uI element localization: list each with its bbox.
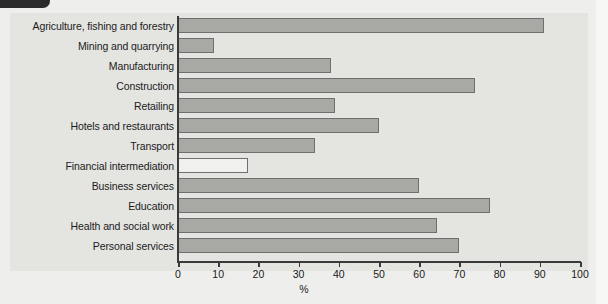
category-label: Personal services	[0, 239, 174, 254]
bar	[178, 18, 544, 33]
bar	[178, 118, 379, 133]
x-axis-tick-label: 50	[359, 268, 399, 280]
x-axis-tick	[459, 262, 461, 267]
bar	[178, 58, 331, 73]
x-axis-tick-label: 10	[198, 268, 238, 280]
bar	[178, 238, 459, 253]
x-axis-title: %	[0, 283, 608, 295]
category-label: Financial intermediation	[0, 159, 174, 174]
category-label: Mining and quarrying	[0, 39, 174, 54]
x-axis-tick-label: 100	[560, 268, 600, 280]
bar	[178, 138, 315, 153]
x-axis-tick-label: 70	[439, 268, 479, 280]
x-axis-tick	[500, 262, 502, 267]
bar	[178, 38, 214, 53]
x-axis-tick	[258, 262, 260, 267]
bar	[178, 98, 335, 113]
category-label: Construction	[0, 79, 174, 94]
screenshot-root: Agriculture, fishing and forestryMining …	[0, 0, 608, 304]
x-axis-tick-label: 80	[480, 268, 520, 280]
x-axis-tick	[339, 262, 341, 267]
category-label: Transport	[0, 139, 174, 154]
bar	[178, 218, 437, 233]
x-axis-tick	[540, 262, 542, 267]
x-axis-tick	[419, 262, 421, 267]
y-axis-line	[177, 16, 179, 262]
x-axis-tick-label: 60	[399, 268, 439, 280]
x-axis-tick	[580, 262, 582, 267]
x-axis-tick-label: 0	[158, 268, 198, 280]
bar	[178, 158, 248, 173]
category-label: Health and social work	[0, 219, 174, 234]
x-axis-tick	[178, 262, 180, 267]
category-label: Agriculture, fishing and forestry	[0, 19, 174, 34]
bar	[178, 198, 490, 213]
x-axis-tick	[379, 262, 381, 267]
x-axis-tick-label: 40	[319, 268, 359, 280]
bar-chart: Agriculture, fishing and forestryMining …	[0, 0, 608, 304]
bar	[178, 178, 419, 193]
category-label: Business services	[0, 179, 174, 194]
category-label: Education	[0, 199, 174, 214]
bar	[178, 78, 475, 93]
category-label: Manufacturing	[0, 59, 174, 74]
x-axis-tick	[299, 262, 301, 267]
category-label: Retailing	[0, 99, 174, 114]
x-axis-tick-label: 20	[238, 268, 278, 280]
x-axis-tick	[218, 262, 220, 267]
x-axis-tick-label: 30	[279, 268, 319, 280]
x-axis-tick-label: 90	[520, 268, 560, 280]
category-label: Hotels and restaurants	[0, 119, 174, 134]
